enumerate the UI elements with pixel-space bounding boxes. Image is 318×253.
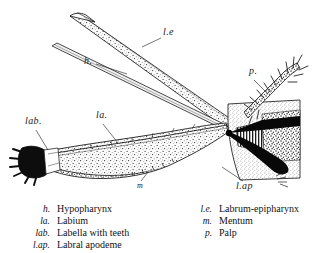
legend-term: Palp <box>219 227 237 239</box>
legend-item: la. Labium <box>18 215 129 227</box>
legend-term: Labium <box>57 215 88 227</box>
legend-abbr: la. <box>18 215 57 227</box>
legend-abbr: lab. <box>18 227 57 239</box>
legend-item: h. Hypopharynx <box>18 203 129 215</box>
legend-column-left: h. Hypopharynx la. Labium lab. Labella w… <box>18 203 129 251</box>
abbreviation-legend: h. Hypopharynx la. Labium lab. Labella w… <box>0 200 318 253</box>
legend-term: Labral apodeme <box>57 239 122 251</box>
legend-abbr: m. <box>180 215 219 227</box>
figure-label-la: la. <box>96 109 107 120</box>
legend-column-right: l.e. Labrum-epipharynx m. Mentum p. Palp <box>180 203 299 239</box>
legend-abbr: p. <box>180 227 219 239</box>
figure-label-m: m <box>137 181 143 190</box>
leader-line-p <box>254 80 268 94</box>
legend-term: Labella with teeth <box>57 227 129 239</box>
figure-label-lab: lab. <box>25 115 42 126</box>
labium-structure <box>44 123 228 179</box>
legend-term: Labrum-epipharynx <box>219 203 299 215</box>
labrum-epipharynx-structure <box>70 13 232 127</box>
legend-item: lab. Labella with teeth <box>18 227 129 239</box>
legend-abbr: h. <box>18 203 57 215</box>
legend-term: Hypopharynx <box>57 203 112 215</box>
leader-line-la <box>103 124 118 143</box>
legend-item: l.e. Labrum-epipharynx <box>180 203 299 215</box>
legend-term: Mentum <box>219 215 253 227</box>
anatomical-figure: l.e h. p. lab. la. m l.ap <box>0 0 318 200</box>
figure-label-le: l.e <box>163 26 174 37</box>
proboscis-illustration <box>0 0 318 200</box>
leader-line-le <box>142 38 161 47</box>
legend-item: m. Mentum <box>180 215 299 227</box>
labella-structure <box>10 146 60 185</box>
figure-label-p: p. <box>249 65 257 76</box>
legend-item: l.ap. Labral apodeme <box>18 239 129 251</box>
legend-abbr: l.ap. <box>18 239 57 251</box>
legend-abbr: l.e. <box>180 203 219 215</box>
legend-item: p. Palp <box>180 227 299 239</box>
figure-label-lap: l.ap <box>236 180 253 191</box>
figure-label-h: h. <box>84 55 92 66</box>
